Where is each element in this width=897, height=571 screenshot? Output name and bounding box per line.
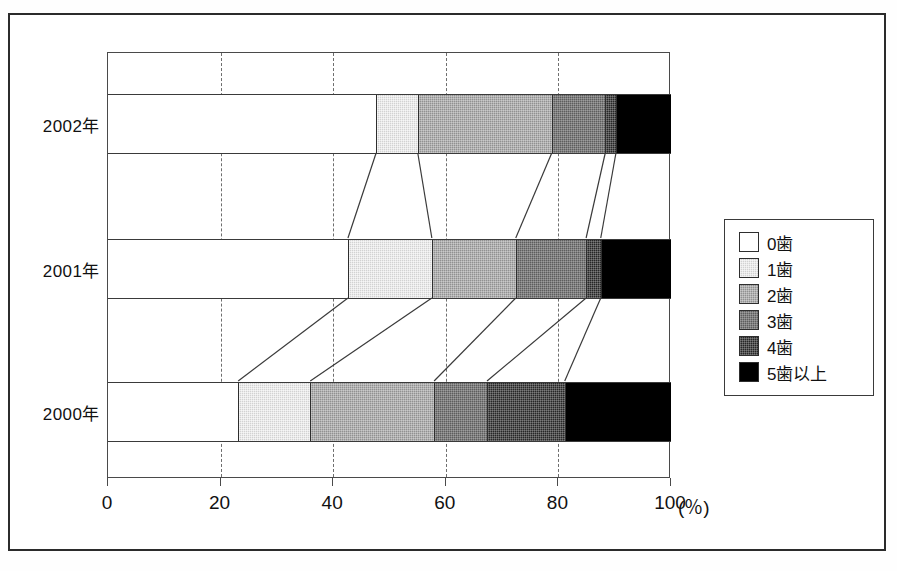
x-axis-tick-60: [445, 478, 446, 486]
x-axis-tick-40: [332, 478, 333, 486]
plot-area: [107, 52, 670, 478]
legend-label: 3歯: [767, 308, 793, 333]
segment-1歯: [349, 240, 433, 298]
segment-3歯: [553, 95, 606, 153]
legend-label: 5歯以上: [767, 360, 827, 385]
segment-4歯: [488, 383, 566, 441]
legend-label: 2歯: [767, 282, 793, 307]
segment-0歯: [108, 383, 239, 441]
x-axis-labels: 020406080100(％): [0, 492, 897, 526]
bar-2001年: [108, 239, 671, 299]
x-axis-label-0: 0: [102, 492, 113, 514]
chart-stage: 2002年2001年2000年 020406080100(％) 0歯1歯2歯3歯…: [0, 0, 897, 571]
segment-5歯以上: [602, 240, 671, 298]
segment-2歯: [419, 95, 553, 153]
segment-5歯以上: [566, 383, 671, 441]
legend-swatch-icon: [739, 232, 759, 252]
segment-2歯: [311, 383, 435, 441]
x-axis-tick-20: [220, 478, 221, 486]
legend-swatch-icon: [739, 336, 759, 356]
legend-item-5歯以上[interactable]: 5歯以上: [739, 359, 873, 385]
x-axis-unit-label: (％): [678, 492, 710, 519]
y-axis-label-2001年: 2001年: [22, 257, 100, 282]
y-axis-label-2002年: 2002年: [22, 112, 100, 137]
segment-4歯: [587, 240, 602, 298]
segment-1歯: [239, 383, 311, 441]
legend-item-2歯[interactable]: 2歯: [739, 281, 873, 307]
x-axis-label-80: 80: [547, 492, 568, 514]
segment-5歯以上: [617, 95, 671, 153]
legend-item-4歯[interactable]: 4歯: [739, 333, 873, 359]
x-axis-label-20: 20: [209, 492, 230, 514]
segment-3歯: [435, 383, 488, 441]
legend-label: 1歯: [767, 256, 793, 281]
segment-1歯: [377, 95, 419, 153]
segment-0歯: [108, 95, 377, 153]
legend-item-3歯[interactable]: 3歯: [739, 307, 873, 333]
segment-2歯: [433, 240, 517, 298]
legend-label: 0歯: [767, 230, 793, 255]
x-axis-label-40: 40: [322, 492, 343, 514]
legend: 0歯1歯2歯3歯4歯5歯以上: [724, 219, 874, 396]
y-axis-label-2000年: 2000年: [22, 400, 100, 425]
bar-2000年: [108, 382, 671, 442]
legend-swatch-icon: [739, 362, 759, 382]
segment-4歯: [606, 95, 617, 153]
legend-item-1歯[interactable]: 1歯: [739, 255, 873, 281]
x-axis-tick-0: [107, 478, 108, 486]
x-axis-tick-100: [670, 478, 671, 486]
legend-label: 4歯: [767, 334, 793, 359]
legend-swatch-icon: [739, 258, 759, 278]
y-axis-labels: 2002年2001年2000年: [18, 0, 100, 571]
segment-3歯: [517, 240, 587, 298]
legend-swatch-icon: [739, 284, 759, 304]
x-axis-label-60: 60: [434, 492, 455, 514]
legend-item-0歯[interactable]: 0歯: [739, 229, 873, 255]
bar-2002年: [108, 94, 671, 154]
legend-swatch-icon: [739, 310, 759, 330]
segment-0歯: [108, 240, 349, 298]
x-axis-tick-80: [557, 478, 558, 486]
